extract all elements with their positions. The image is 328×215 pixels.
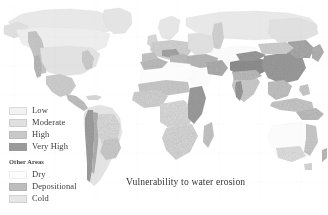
legend-label-depositional: Depositional: [32, 182, 77, 191]
legend-vulnerability-classes: Low Moderate High Very High: [9, 105, 101, 152]
legend-item-dry: Dry: [9, 169, 101, 180]
swatch-depositional: [9, 183, 27, 191]
legend-label-very-high: Very High: [32, 142, 68, 151]
legend-label-moderate: Moderate: [32, 118, 65, 127]
legend-label-low: Low: [32, 106, 48, 115]
map-legend: Low Moderate High Very High Other Areas …: [9, 105, 101, 205]
region-tasmania: [304, 163, 312, 170]
swatch-moderate: [9, 119, 27, 127]
legend-item-high: High: [9, 129, 101, 140]
legend-item-moderate: Moderate: [9, 117, 101, 128]
map-figure: Low Moderate High Very High Other Areas …: [0, 0, 328, 215]
legend-item-depositional: Depositional: [9, 181, 101, 192]
swatch-dry: [9, 171, 27, 179]
swatch-high: [9, 131, 27, 139]
legend-other-areas-classes: Dry Depositional Cold: [9, 169, 101, 204]
map-title: Vulnerability to water erosion: [126, 176, 245, 187]
legend-item-cold: Cold: [9, 193, 101, 204]
legend-item-low: Low: [9, 105, 101, 116]
legend-label-cold: Cold: [32, 194, 49, 203]
legend-item-very-high: Very High: [9, 141, 101, 152]
swatch-low: [9, 107, 27, 115]
swatch-very-high: [9, 143, 27, 151]
legend-label-high: High: [32, 130, 49, 139]
legend-label-dry: Dry: [32, 170, 46, 179]
swatch-cold: [9, 195, 27, 203]
legend-other-areas-heading: Other Areas: [9, 158, 101, 166]
